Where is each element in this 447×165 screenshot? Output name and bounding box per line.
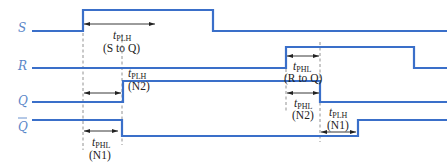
svg-text:tPLH: tPLH	[113, 29, 132, 43]
svg-text:(N1): (N1)	[327, 119, 349, 132]
svg-text:tPLH: tPLH	[329, 106, 348, 120]
svg-text:tPHL: tPHL	[92, 136, 110, 150]
signal-label-qbar: Q	[18, 118, 28, 134]
waveform-q	[32, 81, 447, 102]
timing-diagram: S R Q Q tPLH (S to Q) tPLH (N2) tPHL (N1…	[0, 0, 447, 165]
annotation-tphl-n2: tPHL (N2)	[287, 93, 319, 122]
waveform-qbar	[32, 120, 447, 136]
annotation-tphl-n1: tPHL (N1)	[84, 131, 118, 162]
annotation-tplh-n2: tPLH (N2)	[84, 67, 150, 93]
annotation-tphl-r-to-q: tPHL (R to Q)	[284, 56, 323, 85]
annotation-tplh-s-to-q: tPLH (S to Q)	[84, 24, 155, 55]
annotation-tplh-n1: tPLH (N1)	[321, 106, 356, 132]
signal-label-s: S	[18, 21, 26, 35]
waveform-r	[32, 47, 447, 68]
signal-label-q: Q	[18, 94, 28, 108]
svg-text:Q: Q	[18, 120, 28, 134]
svg-text:(R to Q): (R to Q)	[284, 72, 323, 85]
waveform-s	[32, 10, 447, 31]
svg-text:(N2): (N2)	[292, 109, 314, 122]
svg-text:(N2): (N2)	[128, 80, 150, 93]
signal-label-r: R	[17, 59, 27, 73]
svg-text:(S to Q): (S to Q)	[103, 42, 140, 55]
svg-text:(N1): (N1)	[89, 149, 111, 162]
